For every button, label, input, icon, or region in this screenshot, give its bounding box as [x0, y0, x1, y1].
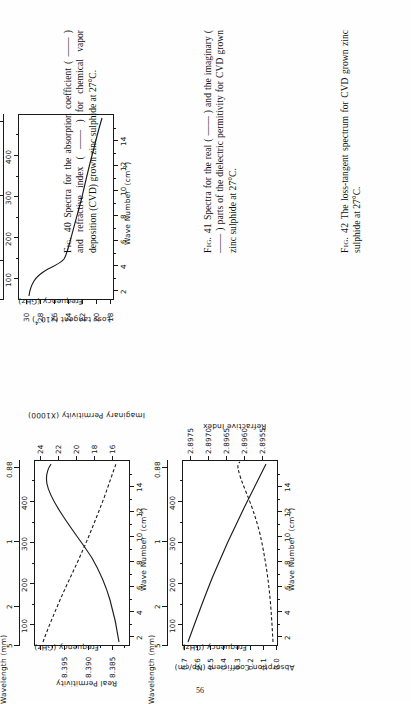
- chart-40-xtick-0: 2: [283, 635, 292, 640]
- figure-block-40: 0.7 0.6 0.5 0.4 0.3 0.2 0.1 0.0 2.8975 2…: [152, 358, 302, 690]
- chart-40-ylabel-right-text: Refractive Index: [203, 422, 266, 431]
- chart-41-ytick-r2: 20: [72, 444, 81, 454]
- chart-41-freq-3: 400: [20, 496, 29, 510]
- chart-41-ylabel-right-text: Imaginary Permitivity (X1000): [28, 411, 145, 420]
- chart-40-ytick-r2: 2.8965: [222, 428, 231, 454]
- chart-40-xtick-6: 14: [283, 482, 292, 492]
- chart-40-ytick-r0: 2.8955: [258, 428, 267, 454]
- chart-42-wavelength-axis: 5 2 1 0.88: [0, 114, 4, 300]
- series-real-permitivity: [46, 464, 119, 642]
- figure-42-caption-block: Fig. 42 The loss-tangent spectrum for CV…: [339, 30, 364, 253]
- chart-40-freq-label: Frequency (GHz): [182, 643, 246, 652]
- chart-40-ytick-r3: 2.8970: [204, 428, 213, 454]
- chart-41-ytick-r3: 22: [54, 444, 63, 454]
- chart-42-freq-1: 200: [4, 232, 13, 246]
- chart-41-ytick-1: 8.390: [84, 656, 93, 678]
- chart-42-xtick-1: 4: [119, 264, 128, 269]
- page-number: 56: [196, 686, 204, 695]
- chart-41-wavelength-axis: 5 2 1 0.88: [6, 460, 20, 646]
- figure-40-caption: Fig. 40 Spectra for the absorption coeff…: [62, 30, 99, 253]
- chart-41-ytick-0: 8.395: [60, 656, 69, 678]
- chart-40-freq-2: 300: [168, 537, 177, 551]
- chart-41-curves: [34, 460, 130, 646]
- chart-41-wl-3: 0.88: [5, 461, 14, 478]
- chart-40-curves: [182, 460, 278, 646]
- chart-40: 0.7 0.6 0.5 0.4 0.3 0.2 0.1 0.0 2.8975 2…: [182, 460, 278, 646]
- chart-40-freq-0: 100: [168, 619, 177, 633]
- chart-42-xtick-6: 14: [119, 136, 128, 146]
- chart-41-freq-label: Frequency (GHz): [34, 643, 98, 652]
- chart-41-freq-label-text: Frequency (GHz): [34, 643, 98, 652]
- figure-42-caption-label: Fig. 42: [339, 223, 350, 253]
- figure-40-inner: 0.7 0.6 0.5 0.4 0.3 0.2 0.1 0.0 2.8975 2…: [152, 358, 302, 690]
- chart-41-ylabel: Real Permitivity: [56, 679, 117, 688]
- figure-42-caption-text: The loss-tangent spectrum for CVD grown …: [339, 30, 362, 253]
- chart-41-freq-1: 200: [20, 578, 29, 592]
- chart-41-ytick-r1: 18: [90, 444, 99, 454]
- chart-41-xtick-0: 2: [135, 635, 144, 640]
- chart-41-wl-1: 2: [5, 604, 14, 609]
- series-imaginary-permitivity: [43, 464, 116, 642]
- figure-41-inner: 8.395 8.390 8.385 24 22 20 18 16: [4, 358, 154, 690]
- chart-41-freq-0: 100: [20, 619, 29, 633]
- chart-42-freq-3: 400: [4, 150, 13, 164]
- chart-40-xlabel: Wave Number (cm-1): [286, 508, 296, 591]
- chart-40-wl-1: 2: [153, 604, 162, 609]
- figure-42-caption: Fig. 42 The loss-tangent spectrum for CV…: [339, 30, 364, 253]
- chart-41-ytick-r0: 16: [108, 444, 117, 454]
- chart-40-ylabel-right: Refractive Index: [203, 422, 266, 431]
- chart-41-wl-2: 1: [5, 539, 14, 544]
- chart-42-freq-label-text: Frequency (GHz): [18, 297, 82, 306]
- figure-41-caption-label: Fig. 41: [202, 223, 213, 253]
- chart-42-ylabel-exp: -4: [35, 320, 41, 326]
- chart-40-freq-1: 200: [168, 578, 177, 592]
- chart-40-wl-2: 1: [153, 539, 162, 544]
- chart-41-xtick-6: 14: [135, 482, 144, 492]
- chart-42-xlabel: Wave Number (cm-1): [122, 162, 132, 245]
- chart-42-ylabel-text: Loss tangent (x10: [41, 315, 111, 324]
- chart-41-wavelength-label: Wavelength (mm): [0, 635, 8, 704]
- chart-41-xtick-1: 4: [135, 610, 144, 615]
- chart-42-ytick-0: 30: [22, 312, 31, 322]
- figure-41-caption-block: Fig. 41 Spectra for the real ( —— ) and …: [202, 30, 239, 253]
- chart-40-ytick-r1: 2.8960: [240, 428, 249, 454]
- chart-41-ylabel-right: Imaginary Permitivity (X1000): [28, 411, 145, 420]
- figure-41-caption-text: Spectra for the real ( —— ) and the imag…: [202, 30, 238, 253]
- chart-41-ytick-2: 8.385: [108, 656, 117, 678]
- figure-40-caption-block: Fig. 40 Spectra for the absorption coeff…: [62, 30, 99, 253]
- chart-40-ylabel: Absorption Coefficient (Np/cm): [174, 663, 294, 672]
- chart-41-ytick-r4: 24: [36, 444, 45, 454]
- chart-40-freq-3: 400: [168, 496, 177, 510]
- chart-40-ylabel-text: Absorption Coefficient (Np/cm): [174, 663, 294, 672]
- chart-41-xlabel: Wave Number (cm-1): [138, 508, 148, 591]
- chart-40-wl-3: 0.88: [153, 461, 162, 478]
- chart-40-ytick-r4: 2.8975: [186, 428, 195, 454]
- chart-40-wavelength-label-text: Wavelength (mm): [147, 635, 156, 704]
- chart-41-ylabel-text: Real Permitivity: [56, 679, 117, 688]
- chart-40-xtick-1: 4: [283, 610, 292, 615]
- chart-41-wavelength-label-text: Wavelength (mm): [0, 635, 8, 704]
- chart-40-freq-label-text: Frequency (GHz): [182, 643, 246, 652]
- figure-40-caption-label: Fig. 40: [62, 222, 73, 253]
- series-absorption-coefficient: [188, 464, 266, 642]
- chart-42-freq-label: Frequency (GHz): [18, 297, 82, 306]
- chart-42-freq-2: 300: [4, 191, 13, 205]
- chart-42-xtick-0: 2: [119, 289, 128, 294]
- figure-40-caption-text: Spectra for the absorption coefficient (…: [62, 30, 98, 253]
- chart-42-ylabel: Loss tangent (x10-4): [32, 315, 111, 325]
- chart-41: 8.395 8.390 8.385 24 22 20 18 16: [34, 460, 130, 646]
- figure-block-41: 8.395 8.390 8.385 24 22 20 18 16: [4, 358, 154, 690]
- chart-41-freq-2: 300: [20, 537, 29, 551]
- chart-40-wavelength-axis: 5 2 1 0.88: [154, 460, 168, 646]
- series-refractive-index: [238, 462, 273, 642]
- chart-42-freq-0: 100: [4, 273, 13, 287]
- chart-40-wavelength-label: Wavelength (mm): [147, 635, 156, 704]
- figure-41-caption: Fig. 41 Spectra for the real ( —— ) and …: [202, 30, 239, 253]
